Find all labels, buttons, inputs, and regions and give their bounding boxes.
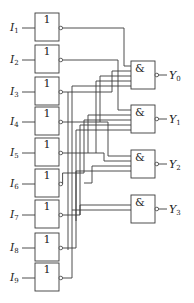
inverter-1: 1I1 bbox=[9, 13, 63, 41]
input-label: I5 bbox=[9, 146, 19, 160]
negation-bubble-icon bbox=[155, 117, 159, 121]
inverter-symbol: 1 bbox=[44, 107, 51, 120]
nand-gate-1: &Y1 bbox=[131, 105, 181, 133]
nand-gate-3: &Y3 bbox=[131, 195, 181, 223]
output-label: Y3 bbox=[169, 203, 181, 217]
negation-bubble-icon bbox=[59, 182, 63, 186]
and-symbol: & bbox=[135, 196, 145, 209]
wire bbox=[63, 153, 131, 161]
inverter-symbol: 1 bbox=[44, 45, 51, 58]
inverter-9: 1I9 bbox=[9, 263, 63, 291]
inverter-symbol: 1 bbox=[44, 77, 51, 90]
negation-bubble-icon bbox=[59, 26, 63, 30]
and-symbol: & bbox=[135, 151, 145, 164]
inverter-symbol: 1 bbox=[44, 169, 51, 182]
output-label: Y2 bbox=[169, 158, 181, 172]
input-label: I3 bbox=[9, 85, 19, 99]
wire bbox=[84, 166, 131, 183]
nand-gate-0: &Y0 bbox=[131, 61, 181, 89]
inverter-8: 1I8 bbox=[9, 233, 63, 261]
output-label: Y1 bbox=[169, 113, 181, 127]
wiring bbox=[63, 28, 131, 278]
wire bbox=[63, 60, 131, 110]
inverter-symbol: 1 bbox=[44, 200, 51, 213]
negation-bubble-icon bbox=[155, 73, 159, 77]
inverter-symbol: 1 bbox=[44, 263, 51, 276]
negation-bubble-icon bbox=[59, 58, 63, 62]
inverter-2: 1I2 bbox=[9, 45, 63, 73]
and-symbol: & bbox=[135, 62, 145, 75]
logic-diagram: 1I11I21I31I41I51I61I71I81I9 &Y0&Y1&Y2&Y3 bbox=[0, 0, 194, 303]
nand-gates: &Y0&Y1&Y2&Y3 bbox=[131, 61, 181, 223]
and-symbol: & bbox=[135, 106, 145, 119]
inverter-symbol: 1 bbox=[44, 138, 51, 151]
output-label: Y0 bbox=[169, 69, 181, 83]
wire bbox=[63, 92, 68, 250]
wire bbox=[88, 115, 131, 153]
nand-gate-2: &Y2 bbox=[131, 150, 181, 178]
negation-bubble-icon bbox=[59, 151, 63, 155]
negation-bubble-icon bbox=[59, 120, 63, 124]
wire bbox=[63, 125, 131, 215]
wire bbox=[63, 122, 131, 156]
input-label: I1 bbox=[9, 21, 19, 35]
negation-bubble-icon bbox=[155, 162, 159, 166]
inverter-7: 1I7 bbox=[9, 200, 63, 228]
wire bbox=[68, 71, 131, 92]
inverter-symbol: 1 bbox=[44, 233, 51, 246]
inverter-6: 1I6 bbox=[9, 169, 63, 197]
wire bbox=[76, 171, 131, 221]
negation-bubble-icon bbox=[59, 276, 63, 280]
wire bbox=[63, 130, 131, 248]
input-label: I4 bbox=[9, 115, 19, 129]
input-label: I7 bbox=[9, 208, 19, 222]
negation-bubble-icon bbox=[59, 246, 63, 250]
inverter-4: 1I4 bbox=[9, 107, 63, 135]
inverter-symbol: 1 bbox=[44, 13, 51, 26]
negation-bubble-icon bbox=[155, 207, 159, 211]
negation-bubble-icon bbox=[59, 213, 63, 217]
input-label: I2 bbox=[9, 53, 19, 67]
negation-bubble-icon bbox=[59, 90, 63, 94]
inverter-3: 1I3 bbox=[9, 77, 63, 105]
input-label: I8 bbox=[9, 241, 19, 255]
input-label: I9 bbox=[9, 271, 19, 285]
input-label: I6 bbox=[9, 177, 19, 191]
inverter-5: 1I5 bbox=[9, 138, 63, 166]
inverter-gates: 1I11I21I31I41I51I61I71I81I9 bbox=[9, 13, 63, 291]
